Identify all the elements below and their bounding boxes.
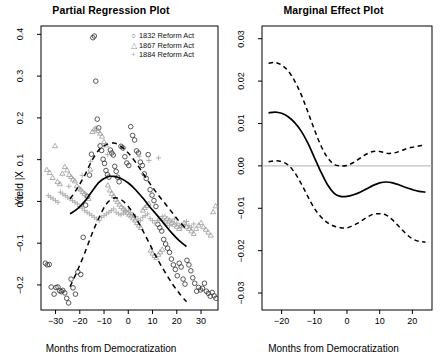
y-tick-label: 0.00: [235, 151, 247, 181]
y-tick-label: 0.03: [235, 24, 247, 54]
legend: ○ 1832 Reform Act △ 1867 Reform Act + 18…: [128, 31, 194, 60]
x-tick-label: 10: [364, 316, 396, 326]
legend-label-1884: 1884 Reform Act: [139, 50, 194, 60]
plus-marker-icon: +: [128, 50, 139, 60]
y-tick-label: −0.03: [235, 278, 247, 308]
marginal-effect-panel: Marginal Effect Plot Marginal Effect on …: [222, 0, 445, 360]
circle-marker-icon: ○: [128, 31, 139, 41]
figure-canvas: Partial Regression Plot Yield |X Months …: [0, 0, 445, 360]
x-tick-label: 0: [331, 316, 363, 326]
y-tick-label: 0.02: [235, 66, 247, 96]
y-tick-label: −0.01: [235, 193, 247, 223]
x-axis-title-right: Months from Democratization: [222, 343, 445, 354]
legend-item-1867: △ 1867 Reform Act: [128, 41, 194, 51]
triangle-marker-icon: △: [128, 41, 139, 51]
partial-regression-panel: Partial Regression Plot Yield |X Months …: [0, 0, 222, 360]
y-tick-label: 0.01: [235, 108, 247, 138]
x-tick-label: 30: [185, 316, 217, 326]
y-tick-label: 0.4: [14, 19, 26, 49]
y-tick-label: 0.2: [14, 103, 26, 133]
marginal-effect-plot-area: [222, 0, 445, 360]
y-tick-label: 0.0: [14, 186, 26, 216]
y-tick-label: −0.1: [14, 228, 26, 258]
y-tick-label: 0.1: [14, 145, 26, 175]
y-tick-label: −0.2: [14, 270, 26, 300]
y-tick-label: −0.02: [235, 236, 247, 266]
y-tick-label: 0.3: [14, 61, 26, 91]
legend-label-1867: 1867 Reform Act: [139, 41, 194, 51]
legend-label-1832: 1832 Reform Act: [139, 31, 194, 41]
legend-item-1884: + 1884 Reform Act: [128, 50, 194, 60]
x-tick-label: −20: [266, 316, 298, 326]
legend-item-1832: ○ 1832 Reform Act: [128, 31, 194, 41]
x-tick-label: 20: [396, 316, 428, 326]
x-axis-title-left: Months from Democratization: [0, 343, 222, 354]
x-tick-label: −10: [298, 316, 330, 326]
